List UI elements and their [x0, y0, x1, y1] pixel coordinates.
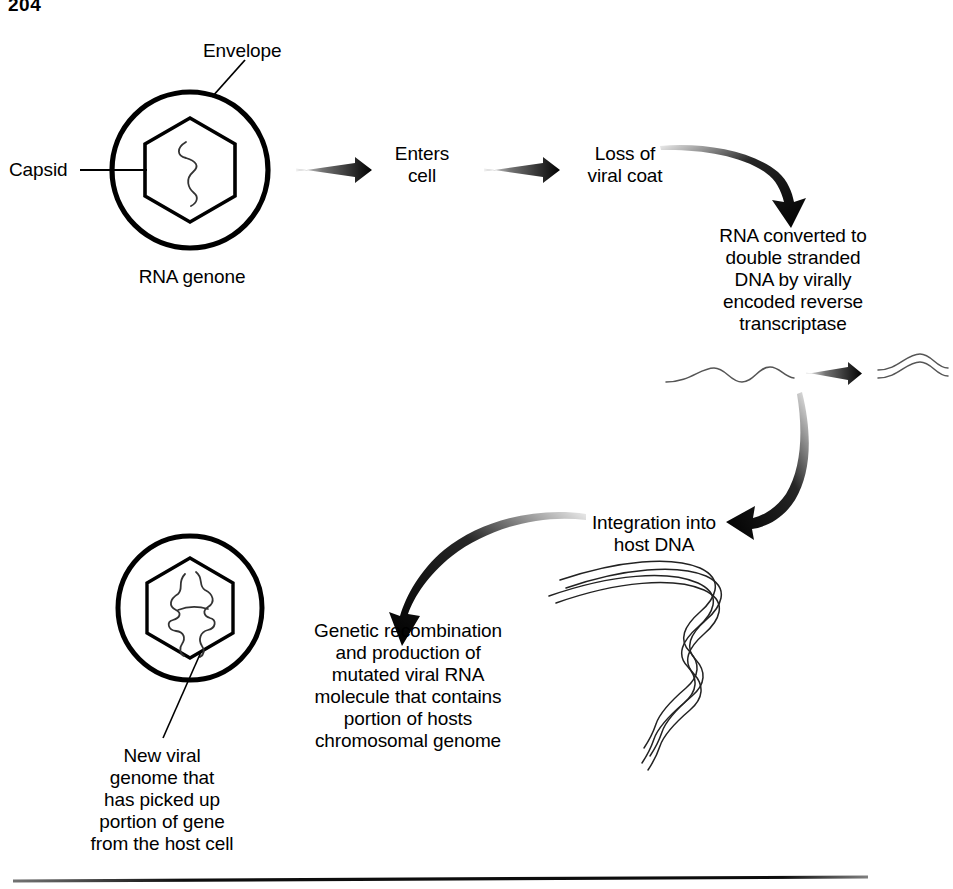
label-new-viral-genome: New viral genome that has picked up port… [64, 745, 260, 855]
label-enters-cell: Enters cell [374, 143, 470, 187]
label-reverse-transcription: RNA converted to double stranded DNA by … [678, 225, 908, 335]
virus-capsid-hexagon [145, 118, 235, 222]
new-virus-capsid-hexagon [147, 558, 233, 658]
label-genetic-recombination: Genetic recombination and production of … [296, 620, 520, 752]
viral-rna-squiggle-icon [179, 142, 197, 206]
label-integration-into-host-dna: Integration into host DNA [578, 512, 730, 556]
label-capsid: Capsid [9, 159, 68, 181]
leader-line-envelope [212, 60, 245, 97]
host-dna-icon [549, 561, 721, 770]
single-stranded-rna-icon [666, 367, 794, 382]
arrow-to-integration-icon [726, 392, 809, 540]
recombinant-rna-crossbar-icon [178, 607, 208, 610]
arrow-loss-of-coat-icon [484, 157, 560, 183]
page-number: 204 [8, 0, 41, 16]
leader-line-new-genome [163, 652, 201, 738]
label-envelope: Envelope [203, 40, 281, 62]
label-loss-of-viral-coat: Loss of viral coat [563, 143, 687, 187]
bottom-virion-group [118, 536, 262, 680]
arrow-enters-cell-icon [296, 157, 372, 183]
double-stranded-dna-icon [878, 354, 948, 378]
recombinant-rna-icon [169, 574, 185, 656]
footer-divider-rule [13, 877, 868, 881]
arrow-rna-to-dna-icon [806, 362, 862, 385]
diagram-page: 204 Envelope Capsid RNA genone Enters ce… [0, 0, 953, 889]
label-rna-genome: RNA genone [117, 266, 267, 288]
